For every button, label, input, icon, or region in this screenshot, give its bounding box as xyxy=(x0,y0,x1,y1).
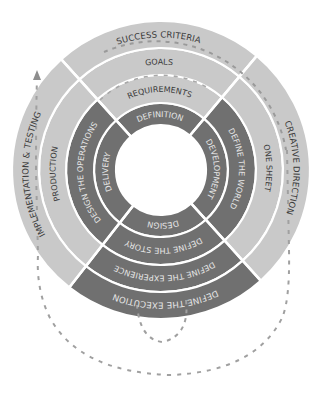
arrowhead-icon xyxy=(33,70,41,80)
process-cycle-diagram: DEFINITIONREQUIREMENTSGOALSSUCCESS CRITE… xyxy=(0,0,329,393)
center-hub xyxy=(117,126,205,214)
label-goals: GOALS xyxy=(145,57,174,67)
